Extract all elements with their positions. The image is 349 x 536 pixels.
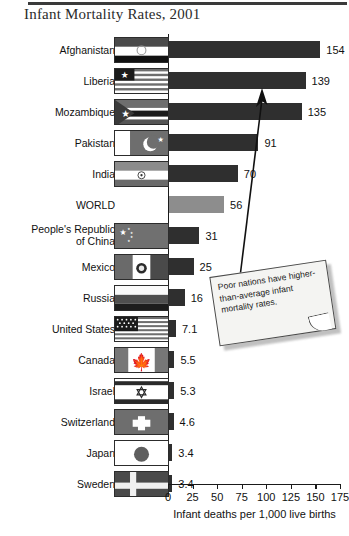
bar — [169, 351, 174, 368]
x-axis-tick-label: 125 — [282, 491, 300, 503]
x-axis-title: Infant deaths per 1,000 live births — [168, 508, 341, 520]
bar-value-label: 3.4 — [178, 444, 193, 461]
table-row: India70 — [0, 158, 347, 189]
flag-afghanistan-icon — [114, 37, 169, 63]
bar — [169, 72, 306, 89]
x-axis-tick — [291, 484, 292, 489]
table-row: Liberia★139 — [0, 65, 347, 96]
flag-pakistan-icon: ★ — [114, 130, 169, 156]
country-label: Pakistan — [10, 127, 115, 158]
x-axis-tick-label: 50 — [211, 491, 223, 503]
bar — [169, 41, 320, 58]
flag-china-icon: ★★★★★ — [114, 223, 169, 249]
bar-value-label: 4.6 — [180, 413, 195, 430]
svg-text:★: ★ — [121, 107, 130, 118]
x-axis: 0255075100125150175 Infant deaths per 1,… — [0, 484, 347, 536]
chart-plot-area: Afghanistan154Liberia★139Mozambique★135P… — [0, 34, 347, 484]
country-label: Canada — [10, 344, 115, 375]
bar — [169, 444, 172, 461]
country-label: Switzerland — [10, 406, 115, 437]
country-label: WORLD — [10, 189, 115, 220]
svg-text:★: ★ — [119, 227, 126, 236]
country-label: Mexico — [10, 251, 115, 282]
table-row: Afghanistan154 — [0, 34, 347, 65]
title-rule — [28, 2, 347, 5]
flag-mexico-icon — [114, 254, 169, 280]
country-label: Israel — [10, 375, 115, 406]
x-axis-tick-label: 175 — [331, 491, 349, 503]
flag-liberia-icon: ★ — [114, 68, 169, 94]
bar — [169, 103, 302, 120]
bar — [169, 289, 185, 306]
callout-text: Poor nations have higher-than-average in… — [217, 267, 325, 317]
bar — [169, 196, 224, 213]
chart-title: Infant Mortality Rates, 2001 — [24, 6, 200, 23]
bar-value-label: 5.5 — [180, 351, 195, 368]
bar-value-label: 7.1 — [182, 320, 197, 337]
bar — [169, 227, 199, 244]
x-axis-tick-label: 75 — [236, 491, 248, 503]
country-label: Liberia — [10, 65, 115, 96]
bar — [169, 382, 174, 399]
x-axis-tick — [266, 484, 267, 489]
x-axis-tick-label: 150 — [306, 491, 324, 503]
flag-japan-icon — [114, 440, 169, 466]
country-label: People's Republicof China — [10, 220, 115, 251]
x-axis-tick — [168, 484, 169, 489]
bar-value-label: 70 — [244, 165, 256, 182]
bar-value-label: 5.3 — [180, 382, 195, 399]
table-row: Switzerland4.6 — [0, 406, 347, 437]
bar — [169, 165, 238, 182]
country-label: India — [10, 158, 115, 189]
country-label: United States — [10, 313, 115, 344]
table-row: People's Republicof China★★★★★31 — [0, 220, 347, 251]
bar-value-label: 154 — [326, 41, 344, 58]
svg-text:★: ★ — [157, 134, 163, 143]
table-row: Pakistan★91 — [0, 127, 347, 158]
x-axis-tick — [340, 484, 341, 489]
bar — [169, 134, 258, 151]
bar — [169, 258, 194, 275]
bar-value-label: 16 — [191, 289, 203, 306]
x-axis-tick — [242, 484, 243, 489]
flag-usa-icon — [114, 316, 169, 342]
country-label: Afghanistan — [10, 34, 115, 65]
country-label: Japan — [10, 437, 115, 468]
bar-value-label: 56 — [230, 196, 242, 213]
flag-russia-icon — [114, 285, 169, 311]
bar-value-label: 25 — [200, 258, 212, 275]
x-axis-tick-label: 0 — [165, 491, 171, 503]
bar-value-label: 31 — [205, 227, 217, 244]
table-row: WORLD56 — [0, 189, 347, 220]
flag-india-icon — [114, 161, 169, 187]
svg-text:★: ★ — [130, 230, 133, 234]
flag-mozambique-icon: ★ — [114, 99, 169, 125]
x-axis-tick — [193, 484, 194, 489]
table-row: Israel5.3 — [0, 375, 347, 406]
bar-value-label: 91 — [264, 134, 276, 151]
bar — [169, 320, 176, 337]
country-label: Russia — [10, 282, 115, 313]
flag-switzerland-icon — [114, 409, 169, 435]
x-axis-tick-label: 100 — [257, 491, 275, 503]
table-row: Mozambique★135 — [0, 96, 347, 127]
svg-text:★: ★ — [127, 238, 130, 242]
bar-value-label: 139 — [312, 72, 330, 89]
table-row: Canada🍁5.5 — [0, 344, 347, 375]
bar — [169, 413, 174, 430]
table-row: Japan3.4 — [0, 437, 347, 468]
x-axis-tick — [217, 484, 218, 489]
flag-israel-icon — [114, 378, 169, 404]
x-axis-tick — [315, 484, 316, 489]
bar-value-label: 135 — [308, 103, 326, 120]
svg-text:★: ★ — [121, 70, 129, 80]
x-axis-tick-label: 25 — [186, 491, 198, 503]
flag-canada-icon: 🍁 — [114, 347, 169, 373]
svg-text:🍁: 🍁 — [131, 352, 152, 372]
country-label: Mozambique — [10, 96, 115, 127]
